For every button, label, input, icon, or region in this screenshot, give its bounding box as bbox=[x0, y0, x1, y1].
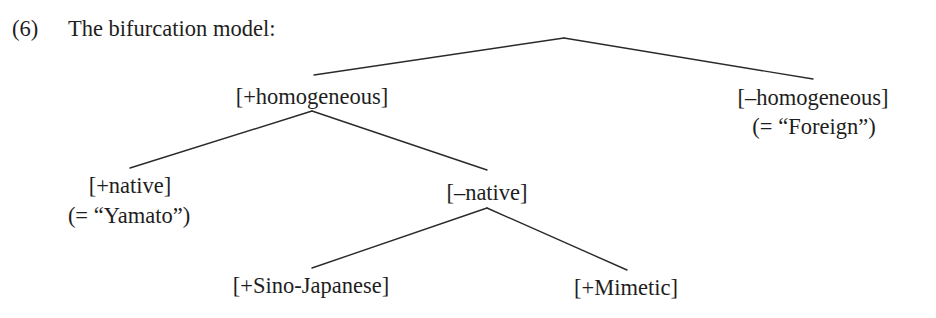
edge-root-minus-homogeneous bbox=[564, 38, 813, 79]
node-minus-homogeneous: [–homogeneous] bbox=[737, 87, 888, 110]
node-minus-homogeneous-gloss: (= “Foreign”) bbox=[752, 116, 875, 139]
tree-branches bbox=[0, 0, 936, 318]
node-plus-homogeneous: [+homogeneous] bbox=[236, 86, 389, 109]
edge-minus-native-plus-mimetic bbox=[487, 208, 627, 270]
edge-plus-homogeneous-plus-native bbox=[130, 111, 312, 168]
edge-root-plus-homogeneous bbox=[314, 38, 564, 75]
node-plus-sino-japanese: [+Sino-Japanese] bbox=[233, 275, 389, 298]
node-minus-native: [–native] bbox=[446, 182, 527, 205]
edge-plus-homogeneous-minus-native bbox=[312, 111, 487, 170]
node-plus-native-gloss: (= “Yamato”) bbox=[68, 205, 190, 228]
edge-minus-native-plus-sino-japanese bbox=[312, 208, 487, 268]
node-plus-mimetic: [+Mimetic] bbox=[574, 277, 678, 300]
node-plus-native: [+native] bbox=[89, 175, 172, 198]
